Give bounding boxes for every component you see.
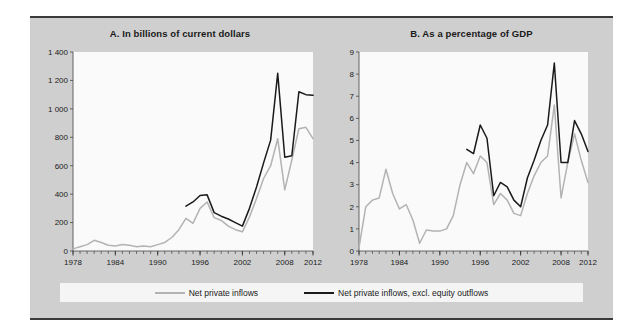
chart-panel-b: B. As a percentage of GDP 01234567891978…: [330, 18, 613, 318]
y-tick-label: 800: [55, 133, 69, 142]
legend-item-net-private-inflows: Net private inflows: [155, 288, 258, 298]
y-tick-label: 1 400: [48, 48, 69, 57]
y-tick-label: 6: [350, 114, 355, 123]
chart-panel-a: A. In billions of current dollars 020040…: [30, 18, 330, 318]
x-tick-label: 1984: [391, 258, 409, 267]
x-tick-label: 2002: [234, 258, 252, 267]
legend: Net private inflows Net private inflows,…: [60, 283, 583, 302]
y-tick-label: 9: [350, 48, 355, 57]
y-tick-label: 2: [350, 203, 355, 212]
y-tick-label: 4: [350, 158, 355, 167]
legend-item-net-private-inflows-excl-equity-outflows: Net private inflows, excl. equity outflo…: [304, 288, 488, 298]
legend-label-1: Net private inflows, excl. equity outflo…: [338, 288, 488, 298]
chart-b-plot: 01234567891978198419901996200220082012: [330, 18, 613, 318]
y-tick-label: 200: [55, 218, 69, 227]
x-tick-label: 1990: [431, 258, 449, 267]
y-tick-label: 0: [64, 247, 69, 256]
x-tick-label: 1978: [64, 258, 82, 267]
x-tick-label: 2012: [579, 258, 597, 267]
y-tick-label: 1 200: [48, 76, 69, 85]
legend-items: Net private inflows Net private inflows,…: [60, 283, 583, 302]
y-tick-label: 400: [55, 190, 69, 199]
x-tick-label: 2008: [552, 258, 570, 267]
y-tick-label: 0: [350, 247, 355, 256]
x-tick-label: 1978: [350, 258, 368, 267]
y-tick-label: 1: [350, 225, 355, 234]
y-tick-label: 3: [350, 180, 355, 189]
bottom-rule: [30, 318, 613, 320]
x-tick-label: 2012: [304, 258, 322, 267]
x-tick-label: 2002: [512, 258, 530, 267]
legend-swatch-black: [304, 292, 334, 294]
y-tick-label: 1 000: [48, 105, 69, 114]
chart-a-plot: 02004006008001 0001 2001 400197819841990…: [30, 18, 330, 318]
legend-swatch-gray: [155, 292, 185, 294]
y-tick-label: 5: [350, 136, 355, 145]
y-tick-label: 600: [55, 162, 69, 171]
figure-container: A. In billions of current dollars 020040…: [0, 0, 643, 336]
x-tick-label: 2008: [276, 258, 294, 267]
x-tick-label: 1984: [106, 258, 124, 267]
y-tick-label: 8: [350, 70, 355, 79]
x-tick-label: 1990: [149, 258, 167, 267]
legend-label-0: Net private inflows: [189, 288, 258, 298]
x-tick-label: 1996: [471, 258, 489, 267]
y-tick-label: 7: [350, 92, 355, 101]
x-tick-label: 1996: [191, 258, 209, 267]
